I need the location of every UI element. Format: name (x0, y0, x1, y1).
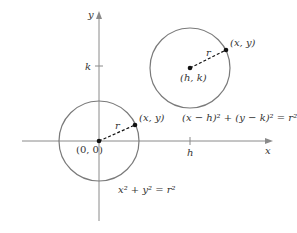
shifted-center-point (188, 66, 193, 71)
shifted-radius-label: r (206, 47, 212, 58)
origin-radius-label: r (115, 120, 121, 131)
y-axis-label: y (87, 9, 94, 20)
diagram-canvas: y x k h (0, 0) (x, y) r x² + y² = r² (h,… (0, 0, 297, 233)
origin-circle-point (133, 123, 138, 128)
origin-point-label: (x, y) (139, 112, 165, 123)
k-tick-label: k (85, 61, 91, 72)
origin-center-label: (0, 0) (76, 144, 103, 155)
h-tick-label: h (187, 147, 193, 158)
origin-center-point (97, 139, 102, 144)
shifted-circle-point (224, 48, 229, 53)
shifted-point-label: (x, y) (230, 37, 256, 48)
y-axis (96, 11, 102, 221)
x-axis-label: x (265, 145, 271, 156)
shifted-circle (150, 28, 230, 108)
shifted-center-label: (h, k) (180, 72, 207, 83)
x-axis-arrow-icon (265, 138, 273, 144)
circle-equation-diagram: y x k h (0, 0) (x, y) r x² + y² = r² (h,… (0, 0, 297, 233)
origin-equation: x² + y² = r² (118, 184, 176, 195)
y-axis-arrow-icon (96, 11, 102, 19)
shifted-equation: (x − h)² + (y − k)² = r² (182, 112, 297, 123)
